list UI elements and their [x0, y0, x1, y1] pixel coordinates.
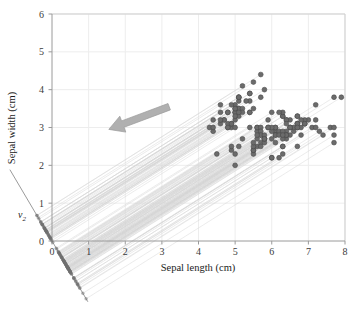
data-point	[244, 99, 249, 104]
projected-point	[46, 232, 49, 235]
data-point	[233, 163, 238, 168]
data-point	[266, 118, 271, 123]
figure-root: 0123456780123456 Sepal length (cm) Sepal…	[0, 0, 361, 319]
x-tick-label: 8	[343, 246, 348, 257]
x-tick-label: 1	[86, 246, 91, 257]
projected-point	[78, 286, 81, 289]
data-point	[269, 136, 274, 141]
data-point	[332, 125, 337, 130]
data-point	[229, 102, 234, 107]
y-tick-label: 0	[39, 236, 44, 247]
projected-point	[66, 266, 69, 269]
data-point	[262, 136, 267, 141]
data-point	[240, 83, 245, 88]
data-point	[295, 125, 300, 130]
data-point	[218, 118, 223, 123]
data-point	[236, 110, 241, 115]
data-point	[280, 133, 285, 138]
data-point	[280, 144, 285, 149]
data-point	[332, 95, 337, 100]
data-point	[266, 125, 271, 130]
data-point	[269, 110, 274, 115]
scatter-plot-svg: 0123456780123456 Sepal length (cm) Sepal…	[0, 0, 361, 319]
data-point	[295, 144, 300, 149]
y-tick-label: 2	[39, 160, 44, 171]
data-point	[214, 152, 219, 157]
data-point	[277, 155, 282, 160]
data-point	[240, 136, 245, 141]
x-tick-label: 5	[233, 246, 238, 257]
data-point	[302, 121, 307, 126]
x-axis-title: Sepal length (cm)	[161, 262, 236, 274]
data-point	[236, 144, 241, 149]
y-tick-label: 6	[39, 9, 44, 20]
data-point	[258, 144, 263, 149]
data-point	[229, 144, 234, 149]
data-point	[247, 110, 252, 115]
data-point	[229, 121, 234, 126]
data-point	[321, 133, 326, 138]
data-point	[251, 80, 256, 85]
x-tick-label: 2	[123, 246, 128, 257]
data-point	[317, 129, 322, 134]
projected-point	[49, 237, 52, 240]
y-axis-title: Sepal width (cm)	[6, 91, 18, 164]
data-point	[280, 152, 285, 157]
x-tick-label: 3	[159, 246, 164, 257]
y-tick-label: 1	[39, 198, 44, 209]
x-tick-label: 4	[196, 246, 201, 257]
data-point	[288, 125, 293, 130]
projected-point	[72, 276, 75, 279]
data-point	[233, 152, 238, 157]
data-point	[262, 87, 267, 92]
data-point	[284, 121, 289, 126]
data-point	[295, 114, 300, 119]
projected-point	[43, 226, 46, 229]
data-point	[251, 106, 256, 111]
projected-point	[55, 246, 58, 249]
data-point	[247, 91, 252, 96]
x-tick-label: 6	[269, 246, 274, 257]
projected-point	[81, 292, 84, 295]
data-point	[255, 133, 260, 138]
data-point	[299, 118, 304, 123]
data-point	[339, 95, 344, 100]
data-point	[225, 125, 230, 130]
y-tick-label: 5	[39, 46, 44, 57]
data-point	[233, 106, 238, 111]
data-point	[233, 125, 238, 130]
x-tick-label: 7	[306, 246, 311, 257]
projected-point	[68, 269, 71, 272]
data-point	[236, 95, 241, 100]
projected-point	[37, 216, 40, 219]
data-point	[218, 102, 223, 107]
data-point	[211, 125, 216, 130]
projected-point	[60, 256, 63, 259]
x-tick-label: 0	[50, 246, 55, 257]
data-point	[269, 155, 274, 160]
projected-point	[51, 241, 54, 244]
data-point	[251, 140, 256, 145]
data-point	[313, 125, 318, 130]
data-point	[211, 118, 216, 123]
data-point	[273, 140, 278, 145]
data-point	[225, 110, 230, 115]
projected-point	[39, 220, 42, 223]
projected-point	[56, 250, 59, 253]
data-point	[258, 95, 263, 100]
data-point	[218, 110, 223, 115]
data-point	[277, 110, 282, 115]
projected-point	[76, 283, 79, 286]
data-point	[313, 118, 318, 123]
data-point	[332, 140, 337, 145]
projected-point	[84, 297, 87, 300]
data-point	[233, 114, 238, 119]
y-tick-label: 4	[39, 84, 44, 95]
data-point	[258, 72, 263, 77]
data-point	[299, 133, 304, 138]
data-point	[247, 125, 252, 130]
projection-axis-label: v2	[18, 209, 26, 223]
data-point	[313, 102, 318, 107]
projected-point	[63, 261, 66, 264]
y-tick-label: 3	[39, 122, 44, 133]
